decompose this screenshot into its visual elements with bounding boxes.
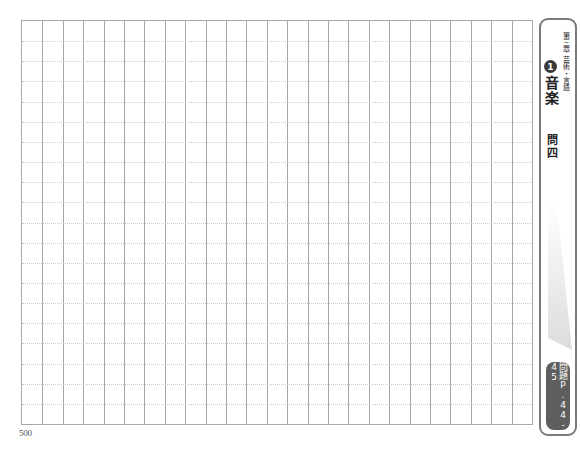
section-number-badge: 1: [544, 60, 557, 73]
grid-row-line: [22, 223, 532, 224]
grid-row-line: [22, 364, 532, 365]
category-label: 芸術・言語: [562, 56, 569, 91]
page-reference-badge: 問題P.44-45: [546, 362, 570, 430]
character-count-label: 500: [19, 428, 32, 438]
grid-row-line: [22, 122, 532, 123]
sidebar-tab: 第三章 1 芸術・言語 音楽 問四 問題P.44-45: [539, 18, 577, 436]
grid-row-line: [22, 263, 532, 264]
section-title: 音楽: [544, 76, 558, 106]
grid-row-line: [22, 41, 532, 42]
grid-row-line: [22, 303, 532, 304]
grid-row-line: [22, 343, 532, 344]
grid-row-line: [22, 81, 532, 82]
grid-row-line: [22, 142, 532, 143]
chapter-label: 第三章: [562, 32, 569, 53]
grid-row-line: [22, 102, 532, 103]
grid-row-line: [22, 323, 532, 324]
grid-row-line: [22, 61, 532, 62]
grid-row-line: [22, 404, 532, 405]
grid-row-line: [22, 384, 532, 385]
grid-row-line: [22, 182, 532, 183]
grid-row-line: [22, 162, 532, 163]
question-label: 問四: [546, 134, 557, 160]
grid-row-line: [22, 243, 532, 244]
manuscript-grid[interactable]: [21, 20, 533, 425]
decorative-gradient-wedge: [548, 200, 572, 350]
grid-row-line: [22, 283, 532, 284]
grid-row-line: [22, 202, 532, 203]
